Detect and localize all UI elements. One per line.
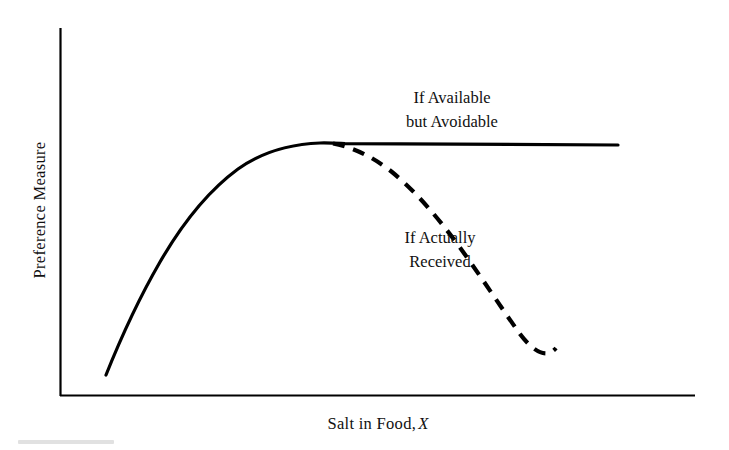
annotation-line-1: If Available xyxy=(352,86,552,110)
y-axis-label: Preference Measure xyxy=(30,60,50,360)
annotation-line-1: If Actually xyxy=(350,226,530,250)
x-axis-label-text: Salt in Food, xyxy=(327,414,416,433)
scan-artifact-smudge xyxy=(18,440,114,444)
plot-area xyxy=(0,0,729,450)
annotation-if-available-but-avoidable: If Available but Avoidable xyxy=(352,86,552,135)
x-axis-label-variable: X xyxy=(416,414,428,433)
x-axis-label: Salt in Food,X xyxy=(258,414,498,434)
annotation-line-2: Received xyxy=(350,250,530,274)
annotation-if-actually-received: If Actually Received xyxy=(350,226,530,275)
annotation-line-2: but Avoidable xyxy=(352,110,552,134)
chart-figure: Preference Measure Salt in Food,X If Ava… xyxy=(0,0,729,450)
